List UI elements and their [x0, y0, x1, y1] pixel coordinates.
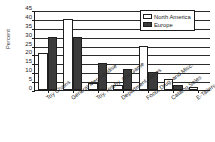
bar-north-america — [88, 83, 98, 90]
y-axis-tick-label: 0 — [19, 85, 32, 91]
x-axis-tickmark — [198, 90, 199, 93]
y-axis-tick-label: 20 — [19, 49, 32, 55]
x-axis-tickmark — [173, 90, 174, 93]
y-axis-title: Percent — [5, 15, 11, 63]
europe-swatch-icon — [143, 22, 152, 28]
y-axis-tick-label: 10 — [19, 67, 32, 73]
y-axis-tick-label: 15 — [19, 58, 32, 64]
x-axis-tickmark — [73, 90, 74, 93]
x-axis-tickmark — [123, 90, 124, 93]
y-axis-tick-label: 35 — [19, 23, 32, 29]
north-america-swatch-icon — [143, 14, 152, 20]
x-axis-tickmark — [48, 90, 49, 93]
bar-north-america — [189, 87, 199, 90]
y-axis-tickmark — [32, 91, 35, 92]
y-axis-tick-label: 45 — [19, 5, 32, 11]
legend-label-north-america: North America — [154, 14, 191, 20]
x-axis-tickmark — [98, 90, 99, 93]
legend-item-north-america: North America — [143, 13, 191, 21]
bar-chart-figure: Percent 454035302520151050 North America… — [0, 0, 215, 142]
bar-north-america — [139, 46, 149, 90]
legend-item-europe: Europe — [143, 21, 191, 29]
bar-europe — [123, 69, 133, 90]
bar-north-america — [164, 79, 174, 90]
y-axis-tick-label: 25 — [19, 41, 32, 47]
bar-group — [35, 11, 60, 90]
bar-group — [110, 11, 135, 90]
bar-north-america — [63, 19, 73, 90]
y-axis-tick-label: 30 — [19, 32, 32, 38]
bar-europe — [48, 37, 58, 90]
bar-europe — [173, 85, 183, 90]
bar-group — [85, 11, 110, 90]
chart-legend: North America Europe — [140, 10, 195, 31]
bar-north-america — [38, 53, 48, 90]
x-axis-tickmark — [148, 90, 149, 93]
legend-label-europe: Europe — [154, 22, 173, 28]
bar-group — [60, 11, 85, 90]
y-axis-tick-labels: 454035302520151050 — [19, 8, 32, 91]
bar-europe — [73, 37, 83, 90]
y-axis-tick-label: 5 — [19, 76, 32, 82]
bar-north-america — [113, 85, 123, 90]
bar-europe — [98, 63, 108, 90]
bar-europe — [148, 72, 158, 90]
y-axis-tick-label: 40 — [19, 14, 32, 20]
